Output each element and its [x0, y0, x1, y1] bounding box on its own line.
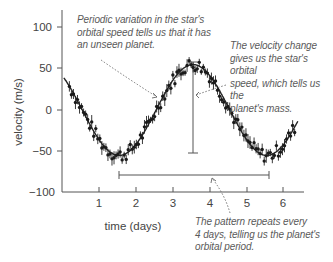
data-point [173, 80, 176, 87]
data-point [187, 57, 190, 64]
note-pattern-repeats: The pattern repeats every 4 days, tellin… [195, 216, 320, 254]
note-periodic-variation: Periodic variation in the star's orbital… [77, 14, 211, 52]
x-tick-3: 3 [170, 197, 176, 209]
x-tick-6: 6 [280, 197, 286, 209]
data-point [275, 141, 278, 151]
arrow-periodic [101, 60, 157, 97]
data-point [133, 141, 136, 154]
data-point [263, 157, 266, 166]
x-axis-label: time (days) [105, 220, 162, 232]
x-tick-1: 1 [96, 197, 102, 209]
data-point [200, 69, 203, 75]
data-point [183, 70, 186, 76]
x-tick-2: 2 [133, 197, 139, 209]
y-axis: 100 50 0 −50 −100 velocity (m/s) [12, 10, 62, 198]
y-tick-neg100: −100 [29, 186, 55, 198]
y-tick-neg50: −50 [32, 145, 52, 157]
data-point [94, 125, 97, 133]
x-tick-5: 5 [244, 197, 250, 209]
x-tick-4: 4 [207, 197, 214, 209]
data-point [198, 59, 201, 66]
note-line: The pattern repeats every [195, 216, 320, 229]
data-point [120, 156, 123, 164]
y-axis-label: velocity (m/s) [12, 78, 24, 146]
note-line: The velocity change [230, 40, 333, 53]
data-point [163, 92, 166, 106]
data-point [238, 122, 241, 136]
y-tick-50: 50 [39, 62, 52, 74]
note-line: orbital speed tells us that it has [77, 27, 211, 40]
amplitude-bar [188, 62, 198, 153]
note-line: planet's mass. [230, 103, 333, 116]
note-line: orbital period. [195, 241, 320, 254]
note-line: an unseen planet. [77, 39, 211, 52]
data-point [104, 143, 107, 152]
note-line: 4 days, telling us the planet's [195, 229, 320, 242]
data-point [206, 68, 209, 77]
note-line: gives us the star's orbital [230, 53, 333, 78]
note-line: Periodic variation in the star's [77, 14, 211, 27]
data-point [137, 140, 140, 148]
data-point [68, 81, 71, 91]
arrow-pattern [212, 178, 230, 213]
data-point [122, 152, 125, 159]
note-velocity-change: The velocity change gives us the star's … [230, 40, 333, 115]
period-bar [119, 171, 269, 179]
annotation-arrows [101, 60, 230, 213]
arrowheads [152, 92, 216, 183]
y-tick-100: 100 [33, 21, 52, 33]
y-tick-0: 0 [46, 104, 52, 116]
note-line: speed, which tells us the [230, 78, 333, 103]
data-point [129, 140, 132, 149]
